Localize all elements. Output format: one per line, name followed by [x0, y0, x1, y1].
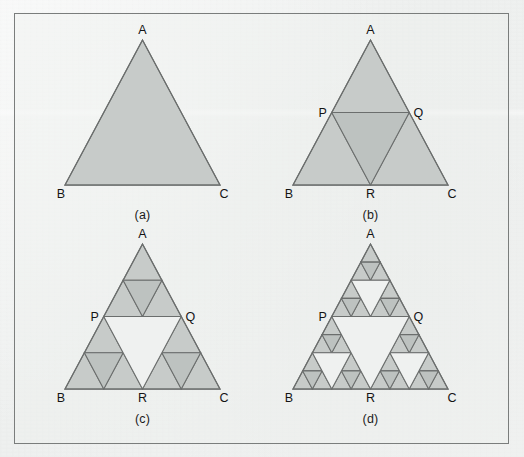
vertex-label-a: A [366, 23, 375, 37]
vertex-label-q: Q [413, 310, 423, 324]
vertex-label-p: P [319, 106, 327, 120]
vertex-label-r: R [366, 187, 375, 201]
sierpinski-filled-triangle [361, 244, 380, 262]
vertex-label-a: A [138, 227, 147, 241]
panel-c-caption: (c) [35, 412, 250, 426]
panel-a: ABC (a) [35, 22, 250, 227]
vertex-label-b: B [285, 187, 293, 201]
vertex-label-c: C [219, 391, 228, 405]
panel-c-diagram: ABCPQR [35, 226, 250, 411]
vertex-label-p: P [319, 310, 327, 324]
vertex-label-c: C [447, 391, 456, 405]
figure-page: ABC (a) ABCPQR (b) ABCPQR (c) ABCPQR (d) [0, 0, 524, 457]
sierpinski-filled-triangle [123, 244, 162, 280]
panel-c: ABCPQR (c) [35, 226, 250, 431]
vertex-label-a: A [138, 23, 147, 37]
vertex-label-c: C [447, 187, 456, 201]
panel-d-diagram: ABCPQR [263, 226, 478, 411]
vertex-label-c: C [219, 187, 228, 201]
sierpinski-filled-triangle [65, 40, 220, 185]
panel-d: ABCPQR (d) [263, 226, 478, 431]
sierpinski-filled-triangle [332, 40, 410, 113]
panel-b: ABCPQR (b) [263, 22, 478, 227]
panel-b-diagram: ABCPQR [263, 22, 478, 207]
vertex-label-r: R [138, 391, 147, 405]
panel-a-caption: (a) [35, 208, 250, 222]
vertex-label-q: Q [413, 106, 423, 120]
vertex-label-b: B [285, 391, 293, 405]
vertex-label-p: P [91, 310, 99, 324]
vertex-label-a: A [366, 227, 375, 241]
vertex-label-q: Q [185, 310, 195, 324]
figure-frame-border: ABC (a) ABCPQR (b) ABCPQR (c) ABCPQR (d) [14, 13, 509, 444]
vertex-label-b: B [57, 187, 65, 201]
vertex-label-b: B [57, 391, 65, 405]
panel-b-caption: (b) [263, 208, 478, 222]
panel-d-caption: (d) [263, 412, 478, 426]
vertex-label-r: R [366, 391, 375, 405]
panel-a-diagram: ABC [35, 22, 250, 207]
